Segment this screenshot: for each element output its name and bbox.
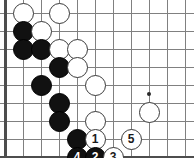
move-number-label: 4 bbox=[74, 151, 81, 158]
stone-white bbox=[67, 57, 88, 78]
go-board-diagram: 15423 bbox=[0, 0, 194, 158]
stone-white bbox=[85, 75, 106, 96]
hoshi-point bbox=[147, 92, 151, 96]
stone-black bbox=[31, 75, 52, 96]
stone-layer: 15423 bbox=[0, 0, 194, 158]
move-number-label: 2 bbox=[92, 151, 99, 158]
move-number-label: 3 bbox=[110, 151, 117, 158]
stone-black bbox=[49, 111, 70, 132]
stone-white-move-3: 3 bbox=[103, 147, 124, 159]
move-number-label: 1 bbox=[92, 133, 99, 145]
move-number-label: 5 bbox=[128, 133, 135, 145]
stone-white bbox=[139, 102, 160, 123]
stone-white-move-5: 5 bbox=[121, 129, 142, 150]
stone-white bbox=[49, 3, 70, 24]
